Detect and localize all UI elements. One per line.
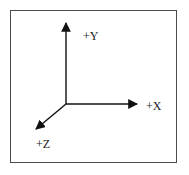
x-axis-label: +X	[146, 100, 161, 112]
y-axis-label: +Y	[83, 30, 98, 42]
z-axis-arrow	[36, 104, 66, 129]
z-axis-label: +Z	[36, 138, 50, 150]
axes-diagram	[0, 0, 189, 175]
